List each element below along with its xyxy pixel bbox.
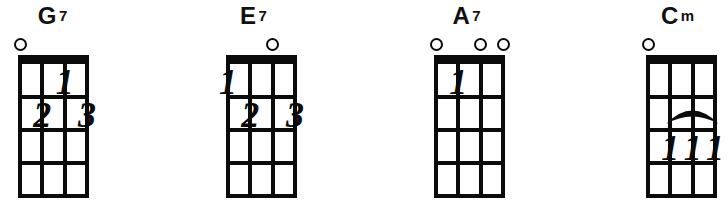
fret-line [434, 95, 505, 99]
chord-quality-suffix: 7 [259, 8, 267, 23]
chord-diagram-g7: G7123 [18, 0, 89, 210]
open-string-marker [430, 38, 443, 51]
fret-line [434, 194, 505, 198]
finger-number: 1 [449, 64, 467, 100]
fret-line [226, 161, 297, 165]
finger-number: 2 [241, 97, 259, 133]
fretboard-grid: 1 [434, 55, 505, 198]
chord-name: A7 [431, 4, 502, 28]
string-line [691, 55, 695, 198]
finger-number: 2 [33, 97, 51, 133]
chord-root-letter: C [661, 4, 679, 28]
chord-name: E7 [218, 4, 289, 28]
chord-root-letter: G [38, 4, 57, 28]
chord-quality-suffix: m [681, 8, 694, 23]
string-line [668, 55, 672, 198]
chord-diagram-e7: E7123 [226, 0, 297, 210]
fretboard-grid: 123 [226, 55, 297, 198]
nut-bar [18, 55, 89, 64]
finger-number: 3 [286, 97, 304, 133]
string-line [434, 55, 438, 198]
chord-chart: G7123E7123A71Cm111 [0, 0, 728, 210]
nut-bar [434, 55, 505, 64]
finger-number: 1 [661, 130, 679, 166]
string-line [713, 55, 717, 198]
chord-root-letter: A [452, 4, 470, 28]
fret-line [646, 95, 717, 99]
string-line [479, 55, 483, 198]
finger-number: 1 [219, 64, 237, 100]
open-string-marker [642, 38, 655, 51]
fret-line [434, 128, 505, 132]
barre-arc [664, 102, 721, 126]
finger-number: 1 [706, 130, 724, 166]
fret-line [18, 161, 89, 165]
chord-name: Cm [642, 4, 713, 28]
finger-number: 1 [684, 130, 702, 166]
chord-name: G7 [17, 4, 88, 28]
chord-diagram-cm: Cm111 [646, 0, 717, 210]
string-line [18, 55, 22, 198]
fret-line [434, 161, 505, 165]
open-string-marker [266, 38, 279, 51]
chord-diagram-a7: A71 [434, 0, 505, 210]
fret-line [646, 194, 717, 198]
fret-line [226, 194, 297, 198]
string-line [271, 55, 275, 198]
open-string-marker [14, 38, 27, 51]
string-line [501, 55, 505, 198]
open-string-marker [474, 38, 487, 51]
fret-line [18, 194, 89, 198]
finger-number: 1 [56, 64, 74, 100]
fretboard-grid: 123 [18, 55, 89, 198]
chord-quality-suffix: 7 [472, 8, 480, 23]
fretboard-grid: 111 [646, 55, 717, 198]
chord-quality-suffix: 7 [59, 8, 67, 23]
nut-bar [646, 55, 717, 64]
open-string-marker [497, 38, 510, 51]
finger-number: 3 [78, 97, 96, 133]
string-line [646, 55, 650, 198]
chord-root-letter: E [240, 4, 257, 28]
